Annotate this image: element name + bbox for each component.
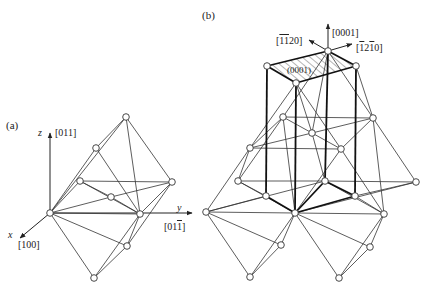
hexagonal-prism-edge <box>295 83 296 213</box>
lattice-edge <box>111 197 140 214</box>
atom-node <box>322 178 329 185</box>
atom-node <box>280 114 287 121</box>
lattice-edge <box>250 245 281 277</box>
hexagonal-prism-edge <box>325 181 355 196</box>
atom-node <box>169 179 176 186</box>
atom-node <box>264 63 271 70</box>
atom-node <box>77 178 84 185</box>
lattice-edge <box>355 196 384 214</box>
lattice-edge <box>126 117 140 214</box>
atom-node <box>247 274 254 281</box>
atom-node <box>235 178 242 185</box>
lattice-edge <box>50 148 96 213</box>
atom-node <box>325 48 332 55</box>
a2-axis-direction: [1210] <box>356 43 383 53</box>
a1-axis-direction: [1120] <box>276 36 302 46</box>
atom-node <box>123 114 130 121</box>
atom-node <box>108 194 115 201</box>
atom-node <box>309 130 316 137</box>
atom-node <box>336 275 343 282</box>
hexagonal-prism-edge <box>266 196 295 213</box>
atom-node <box>381 211 388 218</box>
atom-node <box>293 80 300 87</box>
lattice-edge <box>339 214 384 278</box>
z-axis-direction: [011] <box>55 128 76 138</box>
a2-axis-arrow <box>328 44 352 51</box>
lattice-edge <box>140 182 172 214</box>
atom-node <box>278 242 285 249</box>
hexagonal-prism-edge <box>266 66 267 196</box>
atom-node <box>47 210 54 217</box>
lattice-edge <box>325 181 416 182</box>
atom-node <box>292 210 299 217</box>
atom-node <box>370 115 377 122</box>
lattice-edge <box>339 247 370 278</box>
atom-node <box>352 193 359 200</box>
y-axis-name: y <box>177 203 181 213</box>
lattice-edge <box>50 181 80 213</box>
atom-node <box>93 145 100 152</box>
atom-node <box>124 243 131 250</box>
lattice-edge <box>80 181 111 197</box>
atom-node <box>353 63 360 70</box>
c-axis-direction: [0001] <box>332 28 359 38</box>
x-axis-direction: [100] <box>18 240 40 250</box>
atom-node <box>367 244 374 251</box>
lattice-edge <box>295 213 384 214</box>
lattice-edge <box>356 66 373 118</box>
lattice-edge <box>94 246 127 278</box>
atom-node <box>247 145 254 152</box>
lattice-edge <box>96 117 126 148</box>
lattice-edge <box>283 117 295 213</box>
basal-plane-label: (0001) <box>287 66 311 75</box>
lattice-edge <box>250 213 295 277</box>
lattice-edge <box>126 117 172 182</box>
lattice-edge <box>296 83 341 149</box>
panel-b-label: (b) <box>202 10 215 21</box>
hexagonal-prism-edge <box>355 66 356 196</box>
x-axis-name: x <box>8 230 12 240</box>
atom-node <box>91 275 98 282</box>
atom-node <box>338 146 345 153</box>
lattice-edge <box>94 214 140 278</box>
atom-node <box>413 179 420 186</box>
lattice-edge <box>341 118 373 149</box>
atom-node <box>263 193 270 200</box>
z-axis-name: z <box>38 128 42 138</box>
x-axis-arrow <box>20 213 50 238</box>
lattice-edge <box>238 117 283 181</box>
panel-a-label: (a) <box>6 120 18 131</box>
lattice-edge <box>238 181 266 196</box>
lattice-edge <box>312 133 325 181</box>
lattice-edge <box>80 181 172 182</box>
lattice-edge <box>238 148 250 181</box>
lattice-edge <box>281 213 295 245</box>
lattice-edge <box>328 51 373 118</box>
y-axis-direction: [011] <box>164 222 185 232</box>
atom-node <box>203 209 210 216</box>
lattice-edge <box>206 212 295 213</box>
atom-node <box>137 211 144 218</box>
